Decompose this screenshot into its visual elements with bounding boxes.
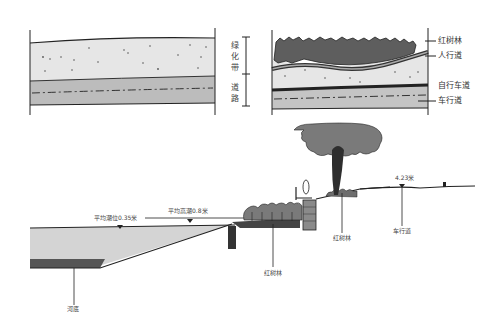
label-riverbed: 河底 [67,306,79,312]
road-surface [360,186,475,189]
label-roadway-section: 车行道 [393,228,411,234]
stone-wall [303,200,316,230]
plan-left [30,28,250,115]
plan-right [272,28,436,115]
label-road: 道路 [230,82,239,104]
plan-left-green-belt [30,38,215,81]
label-mangrove-upper: 红树林 [333,235,351,241]
riverbed [30,259,105,268]
label-mean-high-tide: 平均高潮0.8米 [168,208,208,214]
label-road-elevation: 4.23米 [395,175,414,181]
label-roadway-plan: 车行道 [438,97,462,105]
tree-trunk [332,146,344,195]
diagram-canvas [0,0,499,327]
person-figure [303,180,309,194]
label-mean-tide: 平均潮位0.35米 [94,215,137,221]
label-mangrove-plan: 红树林 [438,37,462,45]
label-green-belt: 绿化带 [230,40,239,73]
high-tide-marker [187,219,193,223]
label-sidewalk: 人行道 [438,52,462,60]
label-bike-lane: 自行车道 [438,82,470,90]
label-mangrove-lower: 红树林 [264,270,282,276]
